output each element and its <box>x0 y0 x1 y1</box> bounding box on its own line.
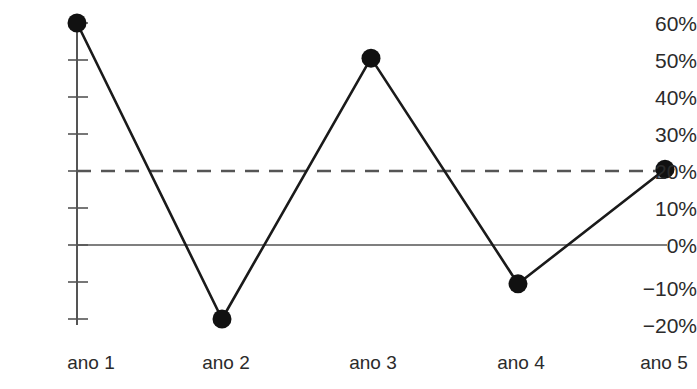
x-tick-label-ano-2: ano 2 <box>202 353 250 372</box>
x-tick-label-ano-5: ano 5 <box>640 353 688 372</box>
x-axis-tick-label-layer: ano 1 ano 2 ano 3 ano 4 ano 5 <box>0 0 697 389</box>
x-tick-label-ano-3: ano 3 <box>349 353 397 372</box>
x-tick-label-ano-4: ano 4 <box>497 353 545 372</box>
line-chart: 60% 50% 40% 30% 20% 10% 0% −10% −20% ano… <box>0 0 697 389</box>
x-tick-label-ano-1: ano 1 <box>67 353 115 372</box>
